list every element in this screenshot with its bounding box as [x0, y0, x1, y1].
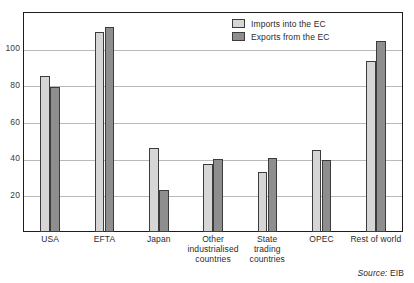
legend-label: Exports from the EC — [251, 32, 329, 42]
legend-swatch-imports — [232, 19, 245, 28]
y-tick-label: 100 — [0, 44, 20, 53]
x-tick-label: Rest of world — [342, 234, 410, 244]
source-note: Source: EIB — [358, 268, 404, 278]
legend-label: Imports into the EC — [251, 19, 326, 29]
y-tick-label: 60 — [0, 118, 20, 127]
legend-item: Imports into the EC — [232, 17, 329, 30]
gridline — [24, 160, 402, 161]
legend-item: Exports from the EC — [232, 30, 329, 43]
x-axis: USAEFTAJapanOtherindustrialisedcountries… — [23, 234, 403, 278]
y-tick-label: 40 — [0, 154, 20, 163]
source-value: EIB — [390, 268, 404, 278]
y-axis: 20406080100 — [0, 12, 20, 232]
gridline — [24, 196, 402, 197]
plot-area — [23, 12, 403, 232]
legend-swatch-exports — [232, 32, 245, 41]
source-label: Source: — [358, 268, 388, 278]
y-tick-label: 20 — [0, 191, 20, 200]
y-tick-label: 80 — [0, 81, 20, 90]
gridline — [24, 123, 402, 124]
chart-figure: 20406080100 USAEFTAJapanOtherindustriali… — [0, 0, 414, 283]
gridline — [24, 50, 402, 51]
gridline — [24, 86, 402, 87]
chart-legend: Imports into the ECExports from the EC — [229, 15, 332, 45]
